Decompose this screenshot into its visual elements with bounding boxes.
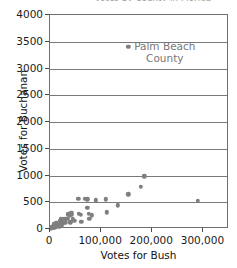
- data-point: [87, 216, 91, 220]
- data-point-outlier: [126, 45, 130, 49]
- gridline-y-500: [50, 202, 227, 203]
- y-tick-label-2000: 2000: [1, 116, 43, 127]
- gridline-y-1000: [50, 176, 227, 177]
- y-tick-mark-2500: [45, 94, 49, 95]
- x-tick-mark-200000: [151, 228, 152, 232]
- y-tick-label-3000: 3000: [1, 62, 43, 73]
- annotation-palm-beach-county: Palm BeachCounty: [134, 40, 195, 64]
- chart-title: Votes by County in Florida: [78, 0, 228, 1]
- y-tick-label-3500: 3500: [1, 35, 43, 46]
- y-tick-mark-3000: [45, 68, 49, 69]
- data-point: [116, 203, 120, 207]
- y-tick-label-4000: 4000: [1, 9, 43, 20]
- y-tick-mark-1500: [45, 148, 49, 149]
- x-tick-label-300000: 300,000: [167, 234, 237, 246]
- y-tick-mark-2000: [45, 121, 49, 122]
- data-point: [138, 185, 142, 189]
- gridline-y-3000: [50, 69, 227, 70]
- y-tick-mark-1000: [45, 175, 49, 176]
- y-tick-mark-500: [45, 201, 49, 202]
- gridline-y-1500: [50, 149, 227, 150]
- x-axis-label: Votes for Bush: [49, 249, 228, 261]
- data-point: [76, 196, 80, 200]
- y-tick-label-500: 500: [1, 196, 43, 207]
- data-point: [90, 213, 94, 217]
- data-point: [126, 192, 130, 196]
- y-tick-label-0: 0: [1, 223, 43, 234]
- scatter-chart-figure: Votes by County in Florida Votes for Buc…: [0, 0, 237, 268]
- annotation-line-0: Palm Beach: [134, 40, 195, 52]
- x-tick-mark-100000: [100, 228, 101, 232]
- gridline-y-2000: [50, 122, 227, 123]
- data-point: [85, 206, 89, 210]
- data-point: [79, 219, 83, 223]
- data-point: [63, 221, 67, 225]
- data-point: [142, 174, 146, 178]
- data-point: [72, 219, 76, 223]
- data-point: [105, 210, 109, 214]
- x-tick-mark-300000: [202, 228, 203, 232]
- y-tick-mark-4000: [45, 14, 49, 15]
- data-point: [103, 197, 107, 201]
- y-tick-label-1500: 1500: [1, 142, 43, 153]
- gridline-y-2500: [50, 95, 227, 96]
- x-tick-mark-0: [49, 228, 50, 232]
- y-tick-label-2500: 2500: [1, 89, 43, 100]
- y-tick-label-1000: 1000: [1, 169, 43, 180]
- data-point: [85, 197, 89, 201]
- annotation-line-1: County: [134, 52, 195, 64]
- data-point: [79, 213, 83, 217]
- y-tick-mark-3500: [45, 41, 49, 42]
